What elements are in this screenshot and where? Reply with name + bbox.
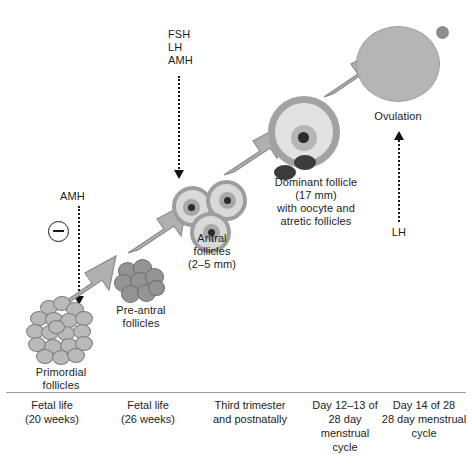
timeline-column-1: Fetal life (20 weeks) <box>4 398 100 426</box>
timeline-column-5: Day 14 of 28 28 day menstrual cycle <box>378 398 470 440</box>
ovulation-arrowhead-icon <box>394 131 404 140</box>
ovulated-follicle-shape <box>356 26 440 102</box>
timeline-column-4: Day 12–13 of 28 day menstrual cycle <box>300 398 390 454</box>
fsh-lh-amh-label: FSH LH AMH <box>168 28 228 67</box>
timeline-column-3: Third trimester and postnatally <box>190 398 310 426</box>
timeline-divider <box>6 392 466 393</box>
atretic-follicle-1-shape <box>294 155 316 170</box>
dominant-follicle-label: Dominant follicle (17 mm) with oocyte an… <box>256 176 376 228</box>
inhibition-minus-icon <box>48 221 69 242</box>
antral-follicles-label: Antral follicles (2–5 mm) <box>162 232 262 271</box>
amh-label: AMH <box>60 190 110 203</box>
fsh-lh-amh-arrowhead-icon <box>174 170 184 179</box>
primordial-follicles-label: Primordial follicles <box>14 366 108 392</box>
preantral-follicles-label: Pre-antral follicles <box>100 304 182 330</box>
released-oocyte-shape <box>436 26 449 39</box>
ovulation-label: Ovulation <box>354 110 442 123</box>
lh-connector <box>398 140 400 222</box>
lh-label: LH <box>374 226 424 239</box>
timeline-column-2: Fetal life (26 weeks) <box>100 398 196 426</box>
fsh-lh-amh-connector <box>178 76 180 172</box>
figure-canvas: FSH LH AMH AMH Ovulation LH <box>0 0 472 468</box>
